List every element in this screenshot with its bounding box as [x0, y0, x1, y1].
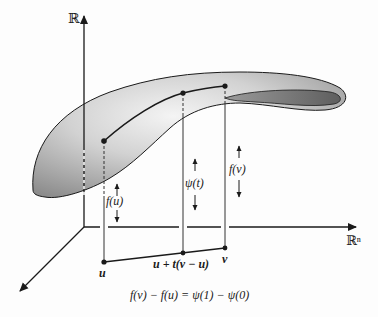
mean-value-diagram: ℝ ℝⁿ f(u) ψ(t) f(v) u u + t(v − u) v f(v… — [0, 0, 378, 317]
diagonal-axis — [20, 227, 84, 291]
label-u: u — [99, 266, 106, 281]
point-u — [101, 259, 106, 264]
caption-equation: f(v) − f(u) = ψ(1) − ψ(0) — [130, 288, 249, 303]
point-psi-t — [180, 90, 185, 95]
label-f-v: f(v) — [229, 162, 246, 177]
vertical-axis-label: ℝ — [68, 10, 80, 27]
horizontal-axis-label: ℝⁿ — [346, 233, 361, 249]
point-f-u — [101, 138, 107, 144]
point-v — [223, 246, 228, 251]
label-v: v — [222, 252, 227, 267]
label-mid: u + t(v − u) — [153, 257, 209, 272]
point-mid — [181, 251, 186, 256]
point-f-v — [222, 83, 227, 88]
label-f-u: f(u) — [106, 194, 123, 209]
label-psi-t: ψ(t) — [185, 176, 204, 191]
